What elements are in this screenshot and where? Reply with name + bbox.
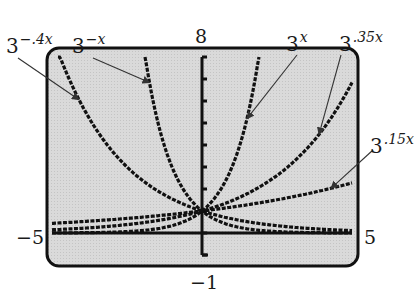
ymin-label: −1 (190, 273, 218, 292)
label-3-0.35x: 3.35x (339, 30, 383, 54)
xmin-label: −5 (16, 228, 44, 247)
label-3-neg-x: 3−x (72, 32, 105, 56)
label-3-0.15x: 3.15x (370, 132, 414, 156)
xmax-label: 5 (364, 228, 376, 247)
label-3-x: 3x (286, 30, 308, 54)
ymax-label: 8 (195, 27, 207, 46)
label-3-neg-0.4x: 3−.4x (6, 32, 53, 56)
